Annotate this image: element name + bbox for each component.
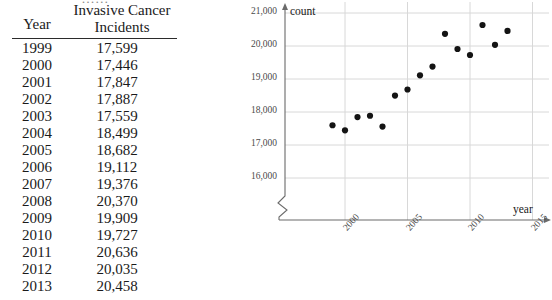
table-row: 200317,559 <box>0 108 186 125</box>
data-point <box>429 63 435 69</box>
cell-year: 2009 <box>12 210 62 227</box>
cell-incidents: 17,887 <box>62 91 172 108</box>
y-tick-label: 21,000 <box>237 6 277 16</box>
chart-canvas <box>252 0 552 300</box>
header-divider <box>12 38 177 39</box>
table-row: 200418,499 <box>0 125 186 142</box>
cell-incidents: 19,376 <box>62 176 172 193</box>
data-point <box>342 127 348 133</box>
table-row: 200919,909 <box>0 210 186 227</box>
table-body: 199917,599200017,446200117,847200217,887… <box>0 40 186 295</box>
data-point <box>492 42 498 48</box>
table-row: 201019,727 <box>0 227 186 244</box>
data-point <box>354 114 360 120</box>
cell-year: 2007 <box>12 176 62 193</box>
cell-year: 2010 <box>12 227 62 244</box>
cell-year: 2005 <box>12 142 62 159</box>
cell-year: 2001 <box>12 74 62 91</box>
cell-incidents: 20,458 <box>62 278 172 295</box>
cell-incidents: 18,499 <box>62 125 172 142</box>
vertical-gridlines <box>345 2 533 220</box>
data-point <box>379 123 385 129</box>
cell-incidents: 17,446 <box>62 57 172 74</box>
y-axis-line-with-break <box>278 9 287 220</box>
table-header-row: Year Invasive Cancer Incidents <box>0 2 186 36</box>
cell-incidents: 17,559 <box>62 108 172 125</box>
column-header-incidents-line2: Incidents <box>62 19 182 36</box>
data-point <box>404 86 410 92</box>
horizontal-gridlines <box>285 13 549 178</box>
cell-incidents: 20,370 <box>62 193 172 210</box>
cell-year: 2006 <box>12 159 62 176</box>
column-header-incidents: Invasive Cancer Incidents <box>62 2 182 36</box>
table-row: 201320,458 <box>0 278 186 295</box>
cell-incidents: 19,727 <box>62 227 172 244</box>
data-point <box>392 92 398 98</box>
table-row: 200217,887 <box>0 91 186 108</box>
table-row: 200719,376 <box>0 176 186 193</box>
cell-year: 2000 <box>12 57 62 74</box>
scatter-chart: count year 16,00017,00018,00019,00020,00… <box>252 0 552 300</box>
cell-year: 2008 <box>12 193 62 210</box>
table-row: 200117,847 <box>0 74 186 91</box>
cell-incidents: 19,112 <box>62 159 172 176</box>
data-point <box>467 52 473 58</box>
data-point <box>479 22 485 28</box>
data-point <box>454 46 460 52</box>
column-header-incidents-line1: Invasive Cancer <box>62 2 182 19</box>
cell-year: 2004 <box>12 125 62 142</box>
data-point <box>367 113 373 119</box>
data-point <box>329 122 335 128</box>
cell-year: 2002 <box>12 91 62 108</box>
table-row: 200017,446 <box>0 57 186 74</box>
table-row: 201220,035 <box>0 261 186 278</box>
cell-year: 2003 <box>12 108 62 125</box>
x-axis-title: year <box>513 203 533 215</box>
cell-incidents: 17,599 <box>62 40 172 57</box>
y-axis-arrowhead <box>282 3 288 10</box>
data-point <box>442 31 448 37</box>
y-tick-label: 20,000 <box>237 39 277 49</box>
table-row: 200518,682 <box>0 142 186 159</box>
cell-year: 1999 <box>12 40 62 57</box>
cell-year: 2011 <box>12 244 62 261</box>
table-row: 200820,370 <box>0 193 186 210</box>
cell-incidents: 17,847 <box>62 74 172 91</box>
y-tick-label: 17,000 <box>237 138 277 148</box>
cell-year: 2012 <box>12 261 62 278</box>
data-points <box>329 22 510 133</box>
table-row: 200619,112 <box>0 159 186 176</box>
cell-incidents: 20,636 <box>62 244 172 261</box>
column-header-year: Year <box>12 16 62 33</box>
cell-incidents: 18,682 <box>62 142 172 159</box>
data-point <box>504 28 510 34</box>
cell-incidents: 19,909 <box>62 210 172 227</box>
incidents-table: …… Year Invasive Cancer Incidents 199917… <box>0 0 190 300</box>
table-row: 199917,599 <box>0 40 186 57</box>
y-axis-title: count <box>290 5 316 17</box>
y-tick-label: 18,000 <box>237 105 277 115</box>
y-tick-label: 16,000 <box>237 171 277 181</box>
cell-incidents: 20,035 <box>62 261 172 278</box>
axes <box>278 3 551 223</box>
table-row: 201120,636 <box>0 244 186 261</box>
y-tick-label: 19,000 <box>237 72 277 82</box>
data-point <box>417 72 423 78</box>
cell-year: 2013 <box>12 278 62 295</box>
